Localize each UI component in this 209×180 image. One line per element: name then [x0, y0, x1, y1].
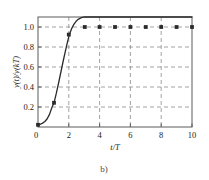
ytick-label-0.4: 0.4	[23, 82, 34, 92]
xtick-label-8: 8	[159, 130, 163, 140]
marker-t7	[144, 25, 148, 29]
figure-container: 1.0 0.8 0.6 0.4 0.2 0 2 4 6 8 10 t/T y(t…	[0, 0, 209, 180]
marker-t8	[159, 25, 163, 29]
marker-t3	[83, 25, 87, 29]
xtick-label-2: 2	[67, 130, 71, 140]
marker-t1	[52, 101, 56, 105]
ytick-label-0.8: 0.8	[23, 42, 34, 52]
marker-t6	[129, 25, 133, 29]
marker-t5	[113, 25, 117, 29]
xtick-label-4: 4	[97, 130, 102, 140]
marker-t4	[98, 25, 102, 29]
marker-t9	[175, 25, 179, 29]
xtick-label-0: 0	[34, 130, 38, 140]
figure-caption: b)	[100, 164, 108, 174]
step-response-chart: 1.0 0.8 0.6 0.4 0.2 0 2 4 6 8 10 t/T y(t…	[0, 0, 209, 180]
ytick-label-0.6: 0.6	[23, 62, 34, 72]
y-axis-title: y(t)/y(kT)	[11, 56, 21, 89]
xtick-label-6: 6	[128, 130, 132, 140]
marker-t10	[190, 25, 194, 29]
ytick-label-0.2: 0.2	[23, 102, 34, 112]
xtick-label-10: 10	[188, 130, 197, 140]
x-axis-title: t/T	[110, 142, 121, 152]
ytick-label-1.0: 1.0	[23, 22, 34, 32]
marker-t2	[67, 33, 71, 37]
marker-t0	[36, 123, 40, 127]
